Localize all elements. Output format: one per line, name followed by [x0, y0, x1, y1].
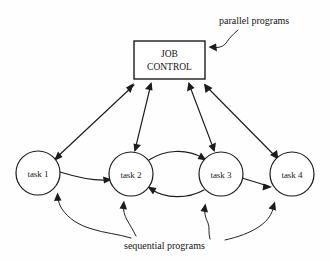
edge-task3-task4 — [242, 178, 272, 191]
edge-task2-jobcontrol — [134, 82, 153, 152]
parallel-programs-label: parallel programs — [219, 15, 289, 26]
node-task3: task 3 — [199, 152, 243, 196]
job-control-line1: JOB — [161, 49, 178, 59]
node-task4: task 4 — [270, 152, 314, 196]
leader-sequential-task3 — [201, 204, 211, 240]
edge-task2-task3-upper — [149, 151, 207, 160]
edge-task3-task2-lower — [148, 187, 205, 197]
edge-task1-jobcontrol — [54, 83, 134, 161]
job-control-box — [134, 41, 205, 79]
node-task4-label: task 4 — [281, 170, 303, 180]
node-task1: task 1 — [16, 151, 60, 195]
leader-sequential-task2 — [120, 201, 137, 237]
edge-task1-task2 — [60, 172, 112, 184]
node-task2-label: task 2 — [120, 170, 141, 180]
diagram-svg: JOB CONTROL parallel programs — [0, 0, 330, 261]
job-control-line2: CONTROL — [147, 62, 192, 72]
node-task3-label: task 3 — [210, 170, 232, 180]
sequential-programs-label: sequential programs — [124, 240, 205, 251]
leader-parallel-programs — [209, 30, 239, 52]
leader-sequential-task1 — [54, 193, 131, 239]
leader-sequential-task4 — [225, 202, 276, 241]
edge-task4-jobcontrol — [204, 84, 279, 160]
node-task2: task 2 — [109, 152, 153, 196]
diagram-canvas: JOB CONTROL parallel programs — [0, 0, 330, 261]
node-task1-label: task 1 — [27, 169, 48, 179]
